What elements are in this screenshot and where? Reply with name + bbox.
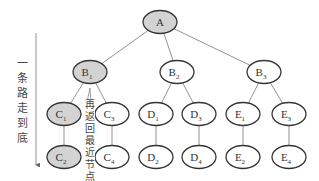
- node-C3: C3: [95, 103, 129, 126]
- dfs-tree-diagram: AB1B2B3C1C3D1D3E1E3C2C4D2D4E2E4: [0, 0, 319, 181]
- node-C4: C4: [95, 146, 129, 169]
- node-E1: E1: [226, 103, 260, 126]
- svg-text:A: A: [156, 16, 164, 28]
- node-C1: C1: [47, 103, 81, 126]
- node-C2: C2: [47, 146, 81, 169]
- backtrack-label: 再返回最近节点: [84, 99, 95, 181]
- node-D4: D4: [182, 146, 216, 169]
- node-E3: E3: [272, 103, 306, 126]
- node-B2: B2: [160, 61, 194, 84]
- node-D2: D2: [139, 146, 173, 169]
- node-D1: D1: [139, 103, 173, 126]
- tree-edges: [64, 22, 289, 157]
- node-E4: E4: [272, 146, 306, 169]
- node-E2: E2: [226, 146, 260, 169]
- depth-first-text: 一条路走到底: [16, 56, 28, 146]
- node-D3: D3: [182, 103, 216, 126]
- node-B1: B1: [73, 61, 107, 84]
- node-A: A: [143, 11, 177, 34]
- depth-first-label: 一条路走到底: [16, 56, 28, 146]
- node-B3: B3: [247, 61, 281, 84]
- backtrack-text: 再返回最近节点: [84, 99, 95, 181]
